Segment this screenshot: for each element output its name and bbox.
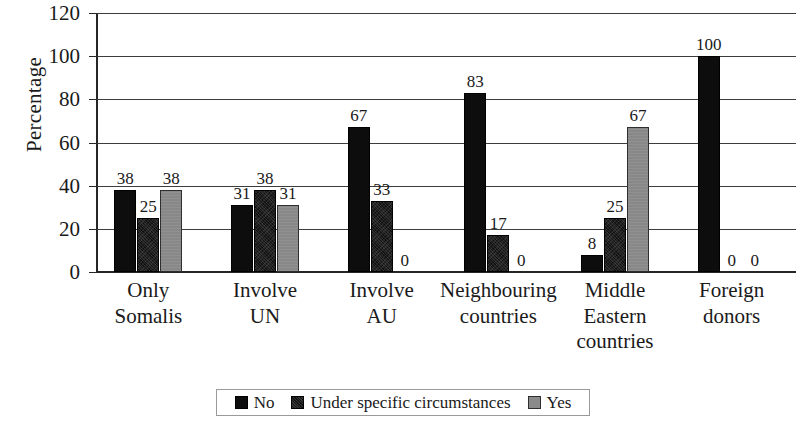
bar <box>581 255 603 272</box>
bar <box>277 205 299 272</box>
bar-value-label: 17 <box>475 215 521 232</box>
gridline <box>96 143 796 144</box>
bar <box>604 218 626 272</box>
y-axis-tick-label: 80 <box>6 89 80 110</box>
bar <box>348 127 370 272</box>
legend-label: Yes <box>547 394 572 411</box>
bar-value-label: 31 <box>265 185 311 202</box>
bar <box>464 93 486 272</box>
gridline <box>96 229 796 230</box>
bar-value-label: 67 <box>615 107 661 124</box>
y-axis-tick-label: 20 <box>6 219 80 240</box>
y-axis-tick <box>89 143 97 144</box>
gridline <box>96 99 796 100</box>
bar-value-label: 0 <box>732 252 778 269</box>
bar-value-label: 38 <box>102 170 148 187</box>
legend-label: No <box>254 394 275 411</box>
x-axis-label: Only Somalis <box>90 278 207 329</box>
bar-value-label: 33 <box>359 181 405 198</box>
y-axis-tick <box>89 186 97 187</box>
legend-item[interactable]: Under specific circumstances <box>291 394 510 411</box>
legend-swatch-icon <box>291 396 304 409</box>
chart-legend: NoUnder specific circumstancesYes <box>216 389 590 416</box>
x-axis-label: Foreign donors <box>673 278 790 329</box>
y-axis-tick <box>89 229 97 230</box>
bar <box>160 190 182 272</box>
bar <box>231 205 253 272</box>
legend-swatch-icon <box>235 396 248 409</box>
bar-value-label: 100 <box>686 36 732 53</box>
plot-area: 0204060801001203831678381002538331725038… <box>96 13 796 272</box>
bar <box>627 127 649 272</box>
legend-label: Under specific circumstances <box>310 394 510 411</box>
legend-item[interactable]: Yes <box>528 394 572 411</box>
gridline <box>96 56 796 57</box>
bar-value-label: 67 <box>336 107 382 124</box>
legend-item[interactable]: No <box>235 394 275 411</box>
y-axis-tick <box>89 56 97 57</box>
x-axis-label: Involve AU <box>323 278 440 329</box>
bar <box>137 218 159 272</box>
bar-chart: Percentage 02040608010012038316783810025… <box>0 0 804 425</box>
y-axis-tick-label: 100 <box>6 46 80 67</box>
bar-value-label: 83 <box>452 73 498 90</box>
x-axis-label: Middle Eastern countries <box>557 278 674 355</box>
gridline <box>96 13 796 14</box>
bar <box>698 56 720 272</box>
legend-swatch-icon <box>528 396 541 409</box>
bar <box>254 190 276 272</box>
bar-value-label: 0 <box>382 252 428 269</box>
y-axis-tick <box>89 272 97 273</box>
x-axis-labels: Only SomalisInvolve UNInvolve AUNeighbou… <box>96 278 796 364</box>
gridline <box>96 186 796 187</box>
y-axis-tick <box>89 13 97 14</box>
bar-value-label: 38 <box>148 170 194 187</box>
y-axis-tick-label: 40 <box>6 176 80 197</box>
x-axis-label: Involve UN <box>207 278 324 329</box>
y-axis-tick <box>89 99 97 100</box>
y-axis-tick-label: 120 <box>6 3 80 24</box>
x-axis-label: Neighbouring countries <box>440 278 557 329</box>
y-axis-tick-label: 60 <box>6 133 80 154</box>
bar-value-label: 0 <box>498 252 544 269</box>
y-axis-tick-label: 0 <box>6 262 80 283</box>
x-axis-baseline <box>96 271 796 273</box>
